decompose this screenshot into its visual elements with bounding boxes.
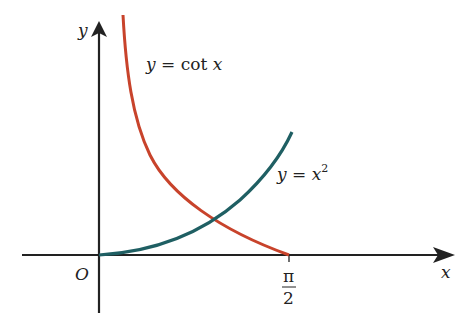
- tick-label-two: 2: [283, 288, 294, 308]
- x-squared-curve-label: y = x2: [276, 162, 328, 184]
- tick-label-pi: π: [283, 266, 294, 286]
- cot-curve-label: y = cot x: [145, 54, 223, 74]
- graph: y x O π 2 y = cot x y = x2: [0, 0, 470, 331]
- cot-curve: [123, 15, 289, 255]
- origin-label: O: [75, 264, 89, 284]
- x-axis-label: x: [441, 262, 451, 282]
- x-squared-curve: [99, 132, 292, 255]
- y-axis-label: y: [77, 20, 88, 40]
